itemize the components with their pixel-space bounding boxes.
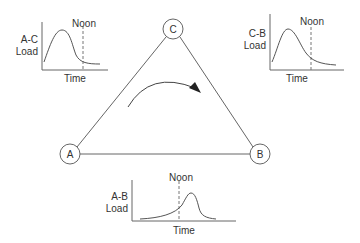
- y-label-line1: A-B: [111, 191, 128, 202]
- y-label-line1: A-C: [21, 34, 38, 45]
- y-label-line1: C-B: [249, 28, 267, 39]
- node-a: A: [60, 144, 80, 164]
- y-label-line2: Load: [16, 46, 38, 57]
- x-axis-label: Time: [64, 73, 86, 84]
- noon-label: Noon: [72, 18, 96, 29]
- load-diagram: C A B Noon A-C Load Time Noon C-B Load T…: [0, 0, 360, 243]
- y-label-line2: Load: [244, 40, 266, 51]
- node-a-label: A: [67, 149, 74, 160]
- node-c: C: [163, 19, 183, 39]
- chart-cb: Noon C-B Load Time: [244, 14, 344, 84]
- triangle-edges: [77, 37, 253, 154]
- node-c-label: C: [169, 24, 176, 35]
- chart-ab: Noon A-B Load Time: [106, 172, 236, 236]
- node-b: B: [250, 144, 270, 164]
- edge-a-c: [77, 37, 166, 147]
- x-axis-label: Time: [173, 225, 195, 236]
- edge-c-b: [180, 37, 253, 147]
- flow-arrow-icon: [128, 82, 201, 107]
- node-b-label: B: [257, 149, 264, 160]
- noon-label: Noon: [300, 16, 324, 27]
- x-axis-label: Time: [286, 73, 308, 84]
- y-label-line2: Load: [106, 203, 128, 214]
- noon-label: Noon: [169, 172, 193, 183]
- chart-ac: Noon A-C Load Time: [16, 18, 108, 84]
